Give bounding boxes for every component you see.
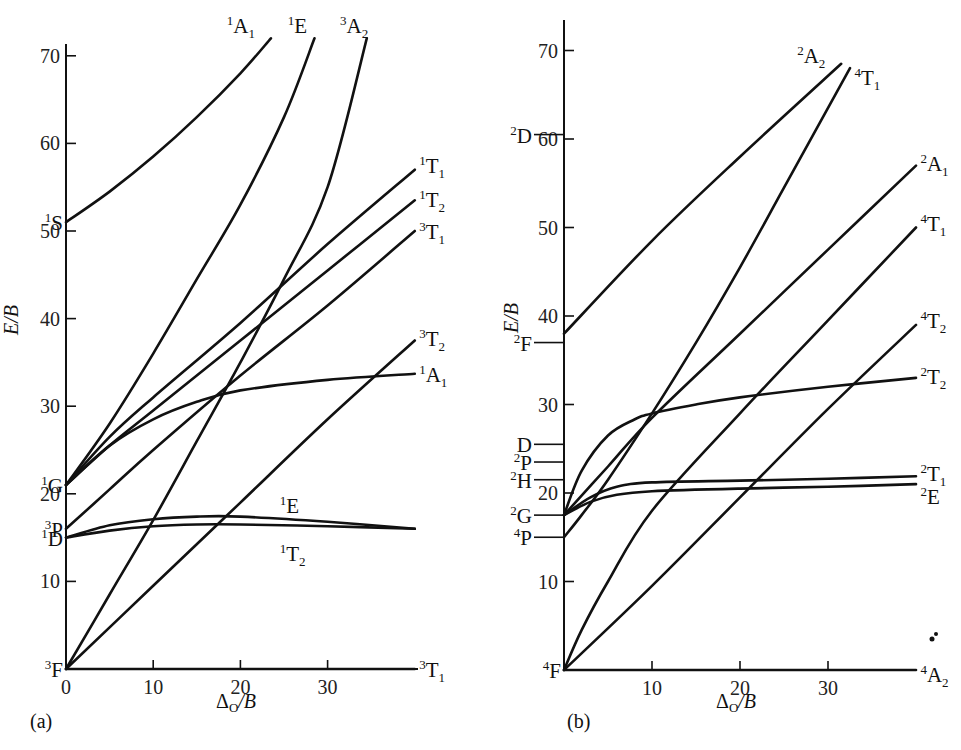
- energy-level-curve: [564, 64, 841, 334]
- y-tick-label: 10: [538, 571, 558, 593]
- state-label: 3T2: [419, 326, 445, 354]
- y-tick-label: 10: [40, 570, 60, 592]
- panel-a-xlabel: ΔO/B: [216, 690, 256, 716]
- energy-level-curve: [564, 166, 916, 515]
- x-tick-label: 30: [318, 676, 338, 698]
- energy-level-curve: [564, 325, 916, 670]
- free-ion-term-label: D: [517, 433, 532, 457]
- state-label: 2T2: [920, 364, 946, 392]
- y-tick-label: 30: [40, 395, 60, 417]
- tanabe-sugano-figure: 1020304050607001020303F1D3P1G1S1A11E3A21…: [0, 0, 961, 750]
- xlabel-tail: /B: [738, 690, 756, 712]
- state-label: 3T1: [419, 219, 445, 247]
- panel-b-label: (b): [567, 710, 590, 733]
- xlabel-tail: /B: [238, 690, 256, 712]
- state-label: 2A2: [797, 43, 825, 71]
- y-tick-label: 40: [40, 308, 60, 330]
- state-label: 4T1: [854, 65, 880, 93]
- state-label: 4T2: [920, 308, 946, 336]
- y-tick-label: 70: [538, 40, 558, 62]
- delta-symbol: Δ: [716, 690, 729, 712]
- y-tick-label: 70: [40, 45, 60, 67]
- state-label: 3T1: [419, 657, 445, 685]
- state-label: 1E: [280, 493, 299, 518]
- x-tick-label: 10: [642, 677, 662, 699]
- state-label: 4A2: [920, 662, 948, 690]
- energy-level-curve: [66, 231, 415, 529]
- y-tick-label: 40: [538, 305, 558, 327]
- state-label: 1A1: [419, 362, 447, 390]
- state-label: 4T1: [920, 211, 946, 239]
- state-label: 1A1: [227, 13, 255, 41]
- ink-speck-mark: [930, 632, 939, 642]
- panel-a-ylabel: E/B: [0, 295, 23, 345]
- y-tick-label: 60: [40, 132, 60, 154]
- state-label: 1T2: [280, 541, 306, 569]
- xlabel-subscript: O: [229, 700, 238, 715]
- energy-level-curve: [564, 484, 916, 515]
- state-label: 3A2: [340, 13, 368, 41]
- x-tick-label: 10: [143, 676, 163, 698]
- panel-b-xlabel: ΔO/B: [716, 690, 756, 716]
- x-tick-label: 30: [818, 677, 838, 699]
- free-ion-term-label: 2D: [510, 123, 532, 148]
- free-ion-term-label: 4F: [543, 658, 561, 683]
- free-ion-term-label: 3F: [45, 657, 63, 682]
- y-tick-label: 60: [538, 128, 558, 150]
- state-label: 1T1: [419, 153, 445, 181]
- state-label: 1T2: [419, 187, 445, 215]
- energy-level-curve: [66, 38, 271, 222]
- energy-level-curve: [564, 228, 916, 671]
- panel-b-ylabel: E/B: [500, 293, 523, 343]
- panel-a-d2-diagram: 1020304050607001020303F1D3P1G1S1A11E3A21…: [40, 13, 447, 698]
- panel-a-label: (a): [30, 710, 52, 733]
- state-label: 2A1: [920, 151, 948, 179]
- y-tick-label: 50: [538, 217, 558, 239]
- delta-symbol: Δ: [216, 690, 229, 712]
- state-label: 1E: [288, 13, 307, 38]
- panel-b-d3-diagram: 102030405060701020304F4P2G2H2PD2F2D2A24T…: [510, 20, 948, 699]
- free-ion-term-label: 4P: [514, 525, 532, 550]
- energy-level-curve: [66, 38, 367, 669]
- y-tick-label: 30: [538, 394, 558, 416]
- state-label: 2E: [920, 484, 939, 509]
- y-tick-label: 20: [538, 482, 558, 504]
- energy-level-curve: [66, 524, 415, 537]
- xlabel-subscript: O: [729, 700, 738, 715]
- energy-level-curve: [66, 200, 415, 485]
